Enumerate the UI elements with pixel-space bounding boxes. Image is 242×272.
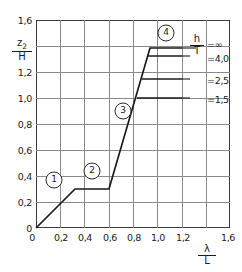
x-tick-1.2: 1,2 xyxy=(176,232,190,243)
y-tick-0.4: 0,4 xyxy=(10,171,32,182)
x-tick-0: 0 xyxy=(29,232,35,243)
y-tick-1.2: 1,2 xyxy=(10,67,32,78)
y-tick-0.2: 0,2 xyxy=(10,197,32,208)
x-tick-1.6: 1,6 xyxy=(221,232,235,243)
x-tick-1.0: 1,0 xyxy=(151,232,165,243)
x-tick-0.8: 0,8 xyxy=(127,232,141,243)
y-axis-label-numerator: z2 xyxy=(12,38,32,51)
region-marker-3: 3 xyxy=(115,103,132,120)
y-tick-1.6: 1,6 xyxy=(10,15,32,26)
y-axis-label: z2 H xyxy=(12,38,32,62)
legend-entry-1-5: =1,5 xyxy=(207,94,229,105)
legend-title-h-over-T: h T xyxy=(190,34,204,56)
legend-entry-2-5: =2,5 xyxy=(207,75,229,86)
y-axis-label-denominator: H xyxy=(12,51,32,63)
legend-entry-4-0: =4,0 xyxy=(207,53,229,64)
region-marker-2: 2 xyxy=(84,163,101,180)
region-marker-4: 4 xyxy=(158,25,175,42)
x-axis-label-numerator: λ xyxy=(198,244,216,255)
y-tick-0.6: 0,6 xyxy=(10,145,32,156)
curve-h-over-T-infinity xyxy=(36,48,182,228)
region-marker-1: 1 xyxy=(46,172,63,189)
y-tick-0.8: 0,8 xyxy=(10,119,32,130)
x-tick-0.6: 0,6 xyxy=(103,232,117,243)
x-axis-label: λ L xyxy=(198,244,216,266)
x-tick-0.4: 0,4 xyxy=(78,232,92,243)
x-axis-label-denominator: L xyxy=(198,255,216,267)
curve-layer xyxy=(0,0,242,272)
x-tick-0.2: 0,2 xyxy=(54,232,68,243)
chart-root: 1,6 1,2 1,0 0,8 0,6 0,4 0,2 0 z2 H 0 0,2… xyxy=(0,0,242,272)
legend-entry-infinity: =∞ xyxy=(207,39,222,50)
legend-title-numerator: h xyxy=(190,34,204,45)
y-tick-1.0: 1,0 xyxy=(10,93,32,104)
legend-title-denominator: T xyxy=(190,45,204,57)
